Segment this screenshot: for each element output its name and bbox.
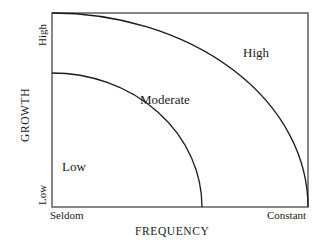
growth-frequency-chart: Low Moderate High Seldom Constant FREQUE… — [0, 0, 330, 250]
region-label-high: High — [243, 46, 269, 59]
y-tick-label-low: Low — [37, 185, 48, 205]
region-label-moderate: Moderate — [140, 93, 190, 106]
upper-boundary-curve — [52, 13, 308, 207]
region-label-low: Low — [62, 160, 86, 173]
y-tick-label-high: High — [37, 24, 48, 46]
y-axis-title: GROWTH — [20, 88, 32, 142]
plot-frame — [52, 13, 308, 207]
x-axis-title: FREQUENCY — [135, 226, 209, 238]
x-tick-label-constant: Constant — [267, 210, 306, 221]
x-tick-label-seldom: Seldom — [50, 210, 84, 221]
